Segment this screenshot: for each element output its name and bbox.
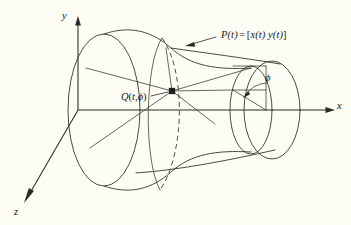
z-axis-line — [30, 110, 78, 193]
ruling-line-upper-left — [86, 68, 172, 91]
p-equals-sign: = — [238, 29, 247, 40]
q-symbol: Q — [121, 91, 129, 102]
p-component-x: x(t) — [250, 29, 265, 40]
generating-curve-label: P(t)=[x(t) y(t)] — [221, 30, 287, 41]
axis-group — [24, 16, 335, 203]
x-axis-arrowhead — [326, 107, 336, 113]
figure-container: y x z P(t)=[x(t) y(t)] Q(t,ϕ) ϕ — [0, 0, 351, 225]
surface-point-label: Q(t,ϕ) — [121, 92, 147, 103]
phi-angle-label: ϕ — [265, 73, 270, 84]
phi-arc-arrowhead — [243, 91, 250, 98]
p-symbol: P(t) — [221, 29, 238, 40]
p-label-leader-line — [192, 37, 216, 44]
p-component-y: y(t) — [268, 29, 283, 40]
y-axis-arrowhead — [75, 16, 81, 26]
surface-of-revolution-diagram — [0, 0, 351, 225]
point-q-marker — [169, 88, 174, 93]
ruling-lines-group — [86, 48, 251, 148]
y-axis-label: y — [62, 11, 67, 22]
phi-angle-construction — [233, 66, 266, 110]
phi-rotated-radius — [233, 90, 266, 110]
ruling-line-lower-right — [172, 91, 215, 124]
ruling-line-to-upper-rim — [172, 68, 251, 91]
visible-cross-section-arc — [148, 38, 162, 190]
p-close-bracket: ] — [283, 29, 287, 40]
q-close-paren: ) — [143, 91, 147, 102]
x-axis-label: x — [337, 101, 342, 112]
ruling-line-to-phi-point — [172, 90, 233, 91]
z-axis-arrowhead — [24, 188, 34, 203]
p-label-leader — [185, 37, 216, 47]
upper-sweep-curve — [171, 48, 280, 64]
z-axis-label: z — [14, 207, 18, 218]
p-label-arrowhead — [185, 42, 195, 47]
